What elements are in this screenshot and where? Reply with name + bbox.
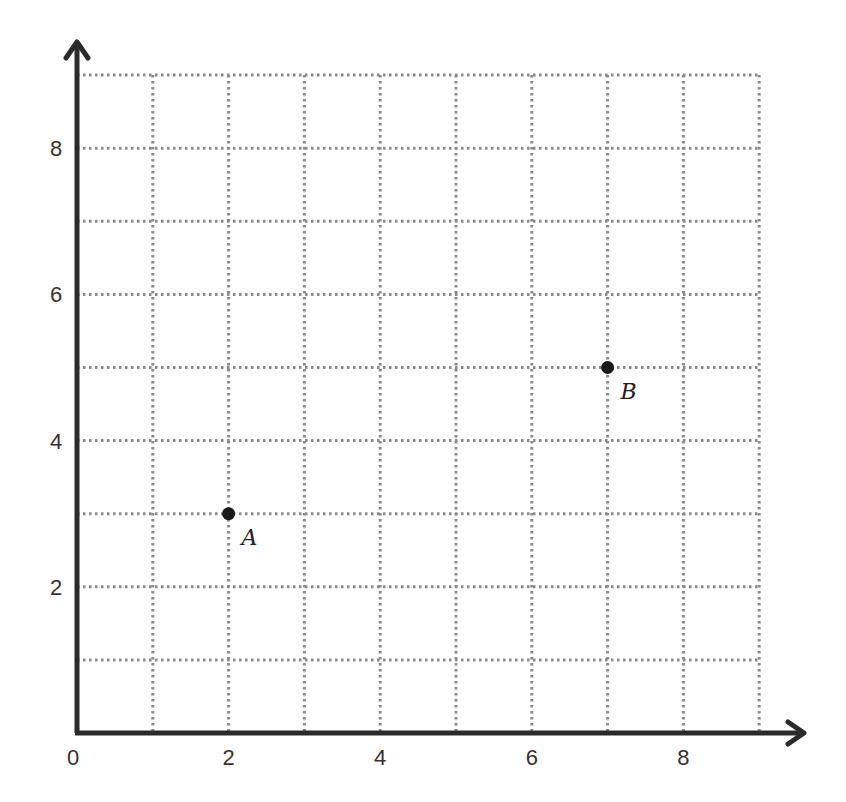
point-b (601, 361, 614, 374)
y-tick-label: 2 (50, 575, 62, 600)
x-tick-label: 2 (222, 745, 234, 770)
axes (66, 42, 804, 744)
point-a (222, 507, 235, 520)
coordinate-grid-chart: 024682468 AB (0, 0, 846, 802)
y-tick-label: 8 (50, 136, 62, 161)
y-tick-label: 4 (50, 429, 62, 454)
x-tick-label: 8 (677, 745, 689, 770)
point-label-a: A (240, 525, 258, 550)
grid-lines (77, 75, 759, 733)
tick-labels: 024682468 (50, 136, 690, 770)
point-label-b: B (620, 379, 637, 404)
x-tick-label: 4 (374, 745, 386, 770)
x-tick-label: 0 (67, 745, 79, 770)
x-tick-label: 6 (526, 745, 538, 770)
y-tick-label: 6 (50, 282, 62, 307)
data-points: AB (222, 361, 637, 550)
